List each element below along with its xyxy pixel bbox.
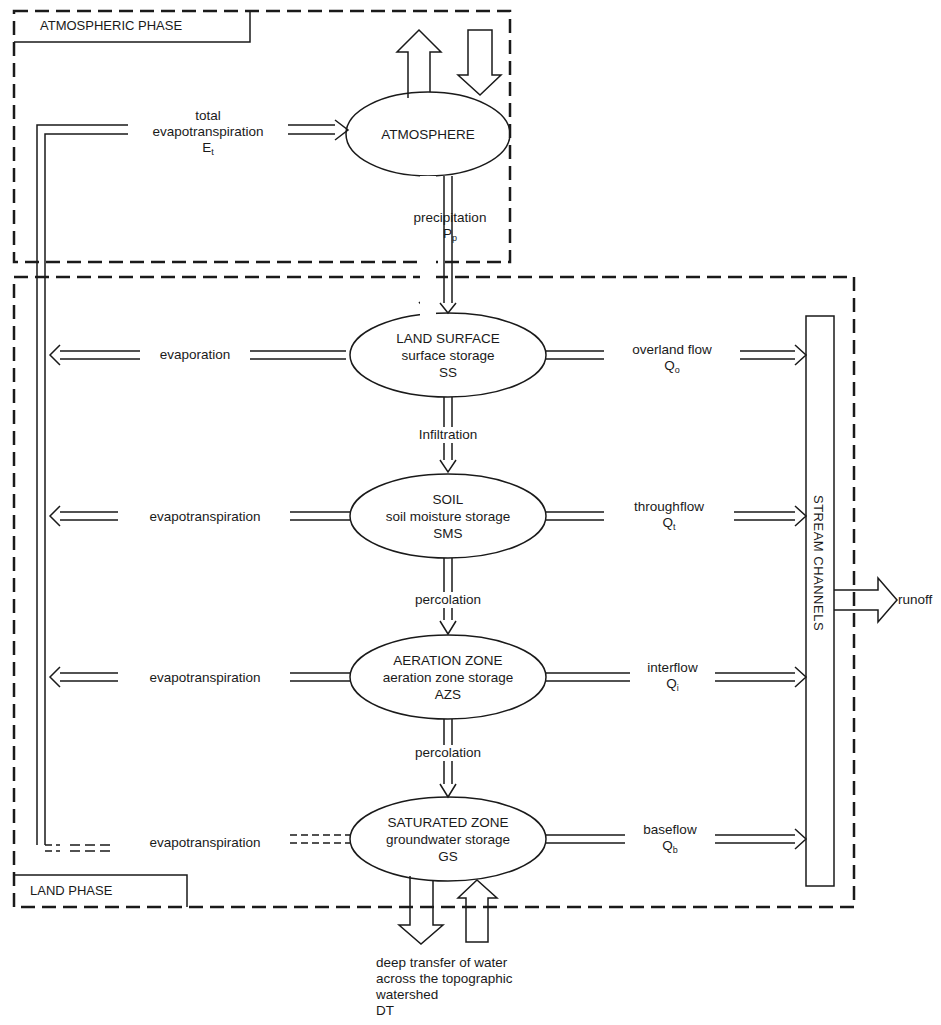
atmospheric-phase-label: ATMOSPHERIC PHASE (40, 18, 182, 33)
percolation-2-label: percolation (400, 745, 496, 761)
saturated-zone-storage: groundwater storage (350, 831, 546, 848)
overland-flow-label: overland flow Qo (604, 342, 740, 378)
atmosphere-down-arrow (458, 30, 501, 95)
evaporation-label: evaporation (140, 347, 250, 363)
deep-transfer-label: deep transfer of water across the topogr… (376, 955, 513, 1019)
saturated-zone-text: SATURATED ZONE groundwater storage GS (350, 814, 546, 865)
soil-title: SOIL (350, 491, 546, 508)
deep-transfer-up-arrow (458, 880, 497, 942)
atmosphere-title: ATMOSPHERE (346, 126, 510, 143)
atmosphere-up-arrow (397, 30, 441, 98)
land-surface-title: LAND SURFACE (350, 330, 546, 347)
land-phase-label: LAND PHASE (30, 883, 112, 898)
total-et-label: total evapotranspiration Et (128, 108, 288, 160)
aeration-zone-text: AERATION ZONE aeration zone storage AZS (350, 652, 546, 703)
land-surface-text: LAND SURFACE surface storage SS (350, 330, 546, 381)
land-surface-abbr: SS (350, 364, 546, 381)
saturated-zone-abbr: GS (350, 848, 546, 865)
stream-channels-label: STREAM CHANNELS (811, 495, 826, 631)
et-soil-label: evapotranspiration (125, 509, 285, 525)
soil-abbr: SMS (350, 525, 546, 542)
aeration-zone-abbr: AZS (350, 686, 546, 703)
throughflow-label: throughflow Qt (604, 499, 734, 535)
total-et-return-line (37, 125, 128, 845)
land-surface-storage: surface storage (350, 347, 546, 364)
runoff-label: runoff (898, 592, 932, 608)
aeration-zone-title: AERATION ZONE (350, 652, 546, 669)
soil-text: SOIL soil moisture storage SMS (350, 491, 546, 542)
infiltration-label: Infiltration (400, 427, 496, 443)
deep-transfer-down-arrow (399, 876, 443, 944)
interflow-label: interflow Qi (630, 660, 715, 696)
baseflow-label: baseflow Qb (625, 822, 715, 858)
aeration-zone-storage: aeration zone storage (350, 669, 546, 686)
saturated-zone-title: SATURATED ZONE (350, 814, 546, 831)
et-saturated-label: evapotranspiration (125, 835, 285, 851)
runoff-arrow (834, 578, 897, 622)
percolation-1-label: percolation (400, 592, 496, 608)
soil-storage: soil moisture storage (350, 508, 546, 525)
precipitation-label: precipitation Pp (400, 210, 500, 246)
et-aeration-label: evapotranspiration (125, 670, 285, 686)
